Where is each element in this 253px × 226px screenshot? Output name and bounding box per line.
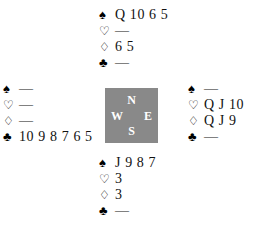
hand-east-clubs-row: ♣ — [188, 129, 244, 145]
spade-suit-icon: ♠ [3, 81, 17, 97]
hand-west-diamonds-ranks: — [17, 113, 33, 129]
club-suit-icon: ♣ [99, 203, 113, 219]
compass-box: N W E S [105, 88, 158, 143]
compass-label-east: E [144, 110, 152, 122]
spade-suit-icon: ♠ [99, 7, 113, 23]
compass-label-north: N [105, 94, 158, 106]
hand-north-spades-row: ♠ Q 10 6 5 [99, 7, 168, 23]
hand-north-diamonds-ranks: 6 5 [113, 39, 134, 55]
hand-east-diamonds-row: ♢ Q J 9 [188, 113, 244, 129]
hand-west-diamonds-row: ♢ — [3, 113, 93, 129]
hand-north-spades-ranks: Q 10 6 5 [113, 7, 168, 23]
hand-south-spades-ranks: J 9 8 7 [113, 155, 156, 171]
hand-west: ♠ — ♡ — ♢ — ♣ 10 9 8 7 6 5 [3, 81, 93, 145]
hand-north: ♠ Q 10 6 5 ♡ — ♢ 6 5 ♣ — [99, 7, 168, 71]
hand-east-hearts-row: ♡ Q J 10 [188, 97, 244, 113]
hand-east: ♠ — ♡ Q J 10 ♢ Q J 9 ♣ — [188, 81, 244, 145]
hand-south-hearts-row: ♡ 3 [99, 171, 156, 187]
club-suit-icon: ♣ [3, 129, 17, 145]
diamond-suit-icon: ♢ [188, 113, 202, 129]
hand-west-hearts-row: ♡ — [3, 97, 93, 113]
compass-label-west: W [111, 110, 123, 122]
hand-north-clubs-row: ♣ — [99, 55, 168, 71]
hand-west-spades-row: ♠ — [3, 81, 93, 97]
hand-south-hearts-ranks: 3 [113, 171, 123, 187]
hand-north-hearts-row: ♡ — [99, 23, 168, 39]
compass-label-south: S [105, 125, 158, 137]
diamond-suit-icon: ♢ [3, 113, 17, 129]
hand-west-spades-ranks: — [17, 81, 33, 97]
hand-east-diamonds-ranks: Q J 9 [202, 113, 237, 129]
hand-north-hearts-ranks: — [113, 23, 129, 39]
spade-suit-icon: ♠ [99, 155, 113, 171]
hand-south-clubs-row: ♣ — [99, 203, 156, 219]
hand-north-diamonds-row: ♢ 6 5 [99, 39, 168, 55]
heart-suit-icon: ♡ [188, 97, 202, 113]
hand-east-spades-ranks: — [202, 81, 218, 97]
hand-east-spades-row: ♠ — [188, 81, 244, 97]
hand-south-spades-row: ♠ J 9 8 7 [99, 155, 156, 171]
hand-east-clubs-ranks: — [202, 129, 218, 145]
bridge-hand-diagram: ♠ Q 10 6 5 ♡ — ♢ 6 5 ♣ — ♠ — ♡ — ♢ — [0, 0, 253, 226]
diamond-suit-icon: ♢ [99, 39, 113, 55]
heart-suit-icon: ♡ [3, 97, 17, 113]
hand-south: ♠ J 9 8 7 ♡ 3 ♢ 3 ♣ — [99, 155, 156, 219]
club-suit-icon: ♣ [188, 129, 202, 145]
hand-west-clubs-ranks: 10 9 8 7 6 5 [17, 129, 93, 145]
hand-west-clubs-row: ♣ 10 9 8 7 6 5 [3, 129, 93, 145]
heart-suit-icon: ♡ [99, 23, 113, 39]
spade-suit-icon: ♠ [188, 81, 202, 97]
hand-west-hearts-ranks: — [17, 97, 33, 113]
club-suit-icon: ♣ [99, 55, 113, 71]
hand-south-diamonds-row: ♢ 3 [99, 187, 156, 203]
hand-south-clubs-ranks: — [113, 203, 129, 219]
diamond-suit-icon: ♢ [99, 187, 113, 203]
heart-suit-icon: ♡ [99, 171, 113, 187]
hand-south-diamonds-ranks: 3 [113, 187, 123, 203]
hand-north-clubs-ranks: — [113, 55, 129, 71]
hand-east-hearts-ranks: Q J 10 [202, 97, 244, 113]
